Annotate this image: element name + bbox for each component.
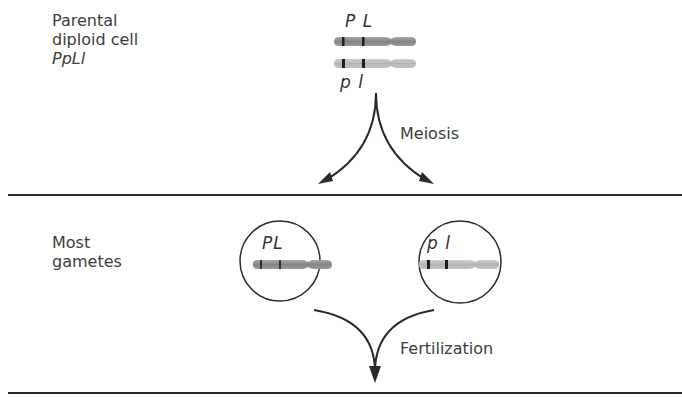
chromosome-gamete-left	[253, 260, 332, 269]
chromosome-parental-top	[334, 37, 416, 46]
chromosome-parental-bottom	[334, 59, 416, 68]
fertilization-arrows-icon	[314, 310, 434, 372]
diagram-graphics	[0, 0, 682, 398]
meiosis-arrows-icon	[326, 93, 426, 180]
chromosome-gamete-right	[419, 260, 499, 269]
